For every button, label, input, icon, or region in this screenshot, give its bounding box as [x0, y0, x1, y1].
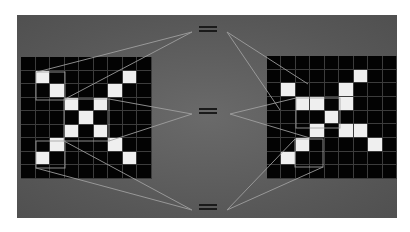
pixel-off: [123, 98, 138, 112]
pixel-on: [296, 97, 310, 111]
pixel-off: [108, 152, 123, 166]
pixel-off: [108, 165, 123, 179]
pixel-off: [79, 165, 94, 179]
pixel-off: [354, 152, 368, 166]
pixel-on: [354, 124, 368, 138]
equals-symbol-top: [199, 26, 217, 33]
pixel-off: [310, 165, 324, 179]
pixel-on: [50, 84, 65, 98]
pixel-off: [339, 70, 353, 84]
pixel-off: [339, 138, 353, 152]
pixel-off: [281, 165, 295, 179]
pixel-off: [267, 97, 281, 111]
pixel-on: [339, 83, 353, 97]
pixel-off: [310, 70, 324, 84]
pixel-off: [325, 152, 339, 166]
pixel-off: [310, 56, 324, 70]
pixel-off: [383, 165, 397, 179]
pixel-off: [281, 124, 295, 138]
pixel-off: [94, 71, 109, 85]
pixel-on: [325, 111, 339, 125]
pixel-off: [354, 97, 368, 111]
pixel-off: [21, 71, 36, 85]
pixel-off: [50, 152, 65, 166]
pixel-off: [368, 97, 382, 111]
pixel-on: [50, 138, 65, 152]
pixel-off: [36, 98, 51, 112]
pixel-off: [310, 138, 324, 152]
pixel-off: [65, 138, 80, 152]
pixel-off: [79, 152, 94, 166]
pixel-on: [281, 152, 295, 166]
pixel-off: [325, 165, 339, 179]
pixel-off: [325, 83, 339, 97]
pixel-off: [368, 152, 382, 166]
pixel-off: [339, 165, 353, 179]
pixel-off: [296, 70, 310, 84]
left-pixel-grid: [21, 57, 152, 179]
pixel-off: [137, 152, 152, 166]
pixel-off: [368, 56, 382, 70]
pixel-off: [79, 98, 94, 112]
pixel-off: [325, 56, 339, 70]
pixel-off: [354, 83, 368, 97]
pixel-off: [108, 111, 123, 125]
pixel-off: [123, 84, 138, 98]
pixel-off: [108, 125, 123, 139]
pixel-off: [123, 125, 138, 139]
pixel-off: [368, 165, 382, 179]
pixel-off: [296, 165, 310, 179]
pixel-off: [79, 71, 94, 85]
pixel-off: [65, 152, 80, 166]
pixel-off: [79, 138, 94, 152]
pixel-off: [65, 57, 80, 71]
pixel-off: [79, 125, 94, 139]
pixel-off: [383, 83, 397, 97]
pixel-off: [281, 56, 295, 70]
pixel-on: [310, 124, 324, 138]
pixel-off: [281, 111, 295, 125]
pixel-off: [137, 165, 152, 179]
pixel-off: [354, 165, 368, 179]
pixel-off: [65, 84, 80, 98]
pixel-on: [368, 138, 382, 152]
right-pixel-grid: [267, 56, 397, 179]
pixel-off: [50, 165, 65, 179]
pixel-off: [21, 165, 36, 179]
pixel-off: [339, 152, 353, 166]
pixel-off: [267, 83, 281, 97]
pixel-off: [296, 152, 310, 166]
pixel-off: [108, 71, 123, 85]
pixel-off: [383, 111, 397, 125]
pixel-off: [21, 98, 36, 112]
pixel-off: [94, 138, 109, 152]
equals-symbol-middle: [199, 108, 217, 115]
pixel-off: [50, 71, 65, 85]
pixel-off: [383, 124, 397, 138]
pixel-on: [36, 152, 51, 166]
pixel-on: [123, 152, 138, 166]
pixel-off: [137, 138, 152, 152]
pixel-off: [50, 98, 65, 112]
pixel-off: [296, 111, 310, 125]
pixel-off: [137, 98, 152, 112]
pixel-off: [354, 56, 368, 70]
pixel-on: [123, 71, 138, 85]
pixel-off: [339, 56, 353, 70]
pixel-on: [94, 125, 109, 139]
pixel-off: [21, 138, 36, 152]
pixel-off: [383, 70, 397, 84]
pixel-off: [21, 152, 36, 166]
pixel-off: [50, 57, 65, 71]
pixel-off: [354, 138, 368, 152]
pixel-off: [281, 97, 295, 111]
pixel-off: [65, 165, 80, 179]
pixel-off: [368, 124, 382, 138]
pixel-off: [108, 57, 123, 71]
pixel-off: [137, 57, 152, 71]
pixel-off: [383, 97, 397, 111]
pixel-off: [325, 124, 339, 138]
pixel-off: [267, 138, 281, 152]
pixel-off: [310, 152, 324, 166]
pixel-off: [21, 84, 36, 98]
